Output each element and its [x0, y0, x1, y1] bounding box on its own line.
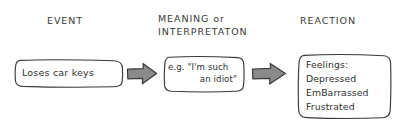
box-reaction-line-1: Depressed — [306, 72, 392, 86]
box-reaction: Feelings: Depressed EmBarrassed Frustrat… — [297, 53, 392, 120]
box-meaning-text: e.g. "I'm such an idiot" — [163, 55, 245, 85]
heading-event: EVENT — [47, 14, 83, 27]
heading-meaning-line2: INTERPRETATON — [158, 25, 248, 38]
arrow-right-icon — [251, 62, 287, 86]
box-event-text: Loses car keys — [14, 58, 124, 88]
heading-meaning: MEANING or INTERPRETATON — [158, 12, 248, 38]
box-meaning-line1: e.g. "I'm such — [168, 62, 228, 72]
arrow-right-icon — [126, 62, 158, 86]
box-reaction-line-2: EmBarrassed — [306, 86, 392, 100]
box-reaction-line-0: Feelings: — [306, 58, 392, 72]
box-reaction-text: Feelings: Depressed EmBarrassed Frustrat… — [297, 53, 392, 114]
box-event: Loses car keys — [14, 58, 124, 88]
cbt-flow-diagram: EVENT MEANING or INTERPRETATON REACTION … — [0, 0, 404, 132]
heading-meaning-line1: MEANING or — [158, 13, 225, 24]
box-reaction-line-3: Frustrated — [306, 100, 392, 114]
box-meaning: e.g. "I'm such an idiot" — [163, 55, 245, 93]
box-meaning-line2: an idiot" — [168, 74, 240, 86]
heading-reaction: REACTION — [300, 14, 356, 27]
arrow-meaning-to-reaction — [251, 62, 287, 90]
arrow-event-to-meaning — [126, 62, 158, 90]
